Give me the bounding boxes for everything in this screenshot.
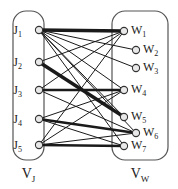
- node-label-w3: W3: [143, 60, 158, 76]
- node-w3[interactable]: [132, 64, 139, 71]
- node-w7[interactable]: [120, 142, 127, 149]
- node-label-main: W: [143, 60, 155, 74]
- node-label-sub: 2: [18, 62, 22, 71]
- node-label-w7: W7: [131, 138, 146, 154]
- node-label-j3: J3: [13, 83, 22, 99]
- node-label-j1: J1: [13, 23, 22, 39]
- node-label-main: W: [143, 42, 155, 56]
- edge-j5-w7: [39, 145, 124, 146]
- node-label-sub: 4: [142, 89, 146, 98]
- node-j5[interactable]: [35, 141, 42, 148]
- node-label-j5: J5: [13, 138, 22, 154]
- node-j4[interactable]: [35, 115, 42, 122]
- node-j3[interactable]: [35, 86, 42, 93]
- node-w6[interactable]: [132, 129, 139, 136]
- edge-j1-w3: [39, 30, 136, 68]
- node-label-j4: J4: [13, 112, 22, 128]
- node-label-w6: W6: [143, 125, 158, 141]
- group-label-vj: VJ: [22, 166, 36, 184]
- node-label-sub: 1: [18, 30, 22, 39]
- group-label-main: V: [131, 166, 141, 181]
- edge-j5-w4: [39, 90, 124, 145]
- node-label-main: W: [131, 82, 143, 96]
- node-label-sub: 5: [18, 145, 22, 154]
- node-w1[interactable]: [120, 27, 127, 34]
- edge-j4-w7: [39, 119, 124, 146]
- node-label-w1: W1: [131, 23, 146, 39]
- node-label-sub: 4: [18, 119, 22, 128]
- node-label-w2: W2: [143, 42, 158, 58]
- node-label-w4: W4: [131, 82, 146, 98]
- node-label-sub: 3: [18, 90, 22, 99]
- edge-j1-w1: [39, 30, 124, 31]
- node-label-sub: 3: [154, 67, 158, 76]
- graph-canvas: VJVWJ1J2J3J4J5W1W2W3W4W5W6W7: [0, 0, 178, 189]
- node-label-sub: 1: [142, 30, 146, 39]
- node-j2[interactable]: [35, 58, 42, 65]
- node-w4[interactable]: [120, 86, 127, 93]
- node-label-main: W: [131, 23, 143, 37]
- node-label-w5: W5: [131, 109, 146, 125]
- node-w5[interactable]: [120, 113, 127, 120]
- group-label-sub: W: [141, 174, 150, 184]
- edge-j2-w1: [39, 31, 124, 62]
- node-w2[interactable]: [132, 46, 139, 53]
- group-label-sub: J: [32, 174, 36, 184]
- node-label-sub: 7: [142, 145, 146, 154]
- group-label-main: V: [22, 166, 32, 181]
- node-label-j2: J2: [13, 55, 22, 71]
- node-label-sub: 2: [154, 49, 158, 58]
- node-j1[interactable]: [35, 26, 42, 33]
- group-label-vw: VW: [131, 166, 150, 184]
- node-label-main: W: [131, 138, 143, 152]
- node-label-main: W: [131, 109, 143, 123]
- bipartite-graph-figure: VJVWJ1J2J3J4J5W1W2W3W4W5W6W7: [0, 0, 178, 189]
- node-label-sub: 6: [154, 132, 158, 141]
- node-label-sub: 5: [142, 116, 146, 125]
- node-label-main: W: [143, 125, 155, 139]
